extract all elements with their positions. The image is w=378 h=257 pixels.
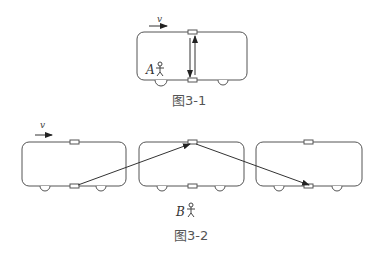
observer-b-label: B — [175, 205, 185, 219]
wheel — [155, 80, 167, 86]
floor-mirror — [188, 184, 197, 188]
floor-mirror — [188, 78, 197, 82]
velocity-label: v — [40, 120, 45, 130]
light-path-down-arrow — [196, 144, 309, 185]
wheel — [96, 186, 106, 191]
train-car — [22, 142, 126, 186]
train-car-position-2 — [139, 140, 244, 191]
stick-figure-icon — [187, 203, 195, 217]
train-car — [256, 142, 362, 186]
ceiling-mirror — [304, 140, 313, 144]
train-car-position-1 — [22, 140, 126, 191]
ceiling-mirror — [188, 30, 197, 34]
observer-b: B — [175, 203, 195, 219]
train-car — [139, 142, 244, 186]
wheel — [274, 186, 284, 191]
wheel — [218, 80, 228, 85]
figure-3-1: v A 图3-1 — [137, 14, 247, 108]
wheel — [332, 186, 342, 191]
train-car-position-3 — [256, 140, 362, 191]
light-path-up-arrow — [78, 144, 190, 185]
figure-3-2: v — [22, 120, 362, 243]
diagram-svg: v A 图3-1 v — [0, 0, 378, 257]
figure-caption: 图3-2 — [174, 228, 208, 243]
velocity-arrow-fig1: v — [149, 14, 167, 26]
diagram-canvas: v A 图3-1 v — [0, 0, 378, 257]
ceiling-mirror — [188, 140, 197, 144]
wheel — [40, 186, 50, 191]
observer-a: A — [145, 62, 164, 77]
velocity-label: v — [157, 14, 162, 24]
figure-caption: 图3-1 — [172, 93, 206, 108]
ceiling-mirror — [70, 140, 79, 144]
floor-mirror — [70, 184, 79, 188]
stick-figure-icon — [156, 62, 164, 76]
velocity-arrow-fig2: v — [35, 120, 52, 135]
observer-a-label: A — [145, 63, 155, 77]
wheel — [215, 186, 225, 191]
wheel — [157, 186, 167, 191]
